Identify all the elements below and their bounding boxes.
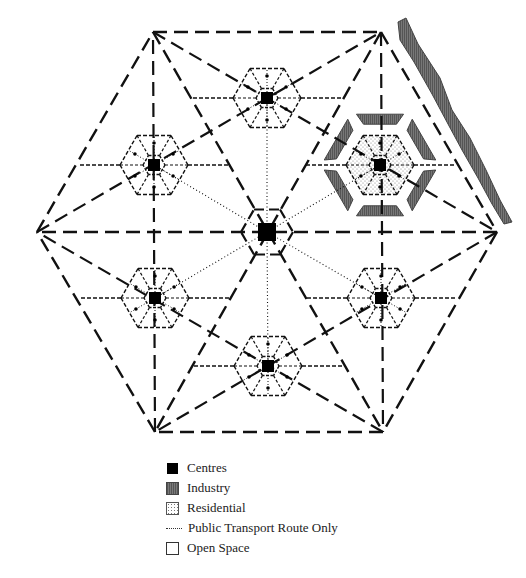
open-space-symbol-icon <box>166 542 179 555</box>
legend-item-transport: Public Transport Route Only <box>166 518 338 538</box>
legend: Centres Industry Residential Public Tran… <box>166 458 338 558</box>
legend-item-residential: Residential <box>166 498 338 518</box>
legend-label: Public Transport Route Only <box>188 520 338 536</box>
legend-label: Open Space <box>187 540 249 556</box>
legend-item-industry: Industry <box>166 478 338 498</box>
residential-symbol-icon <box>166 502 179 515</box>
centre-symbol-icon <box>167 463 178 474</box>
city-model-diagram <box>0 0 526 450</box>
legend-label: Residential <box>187 500 246 516</box>
dotted-line-icon <box>166 528 182 529</box>
legend-label: Centres <box>187 460 227 476</box>
legend-label: Industry <box>187 480 230 496</box>
industry-symbol-icon <box>166 482 179 495</box>
legend-item-open-space: Open Space <box>166 538 338 558</box>
legend-item-centres: Centres <box>166 458 338 478</box>
